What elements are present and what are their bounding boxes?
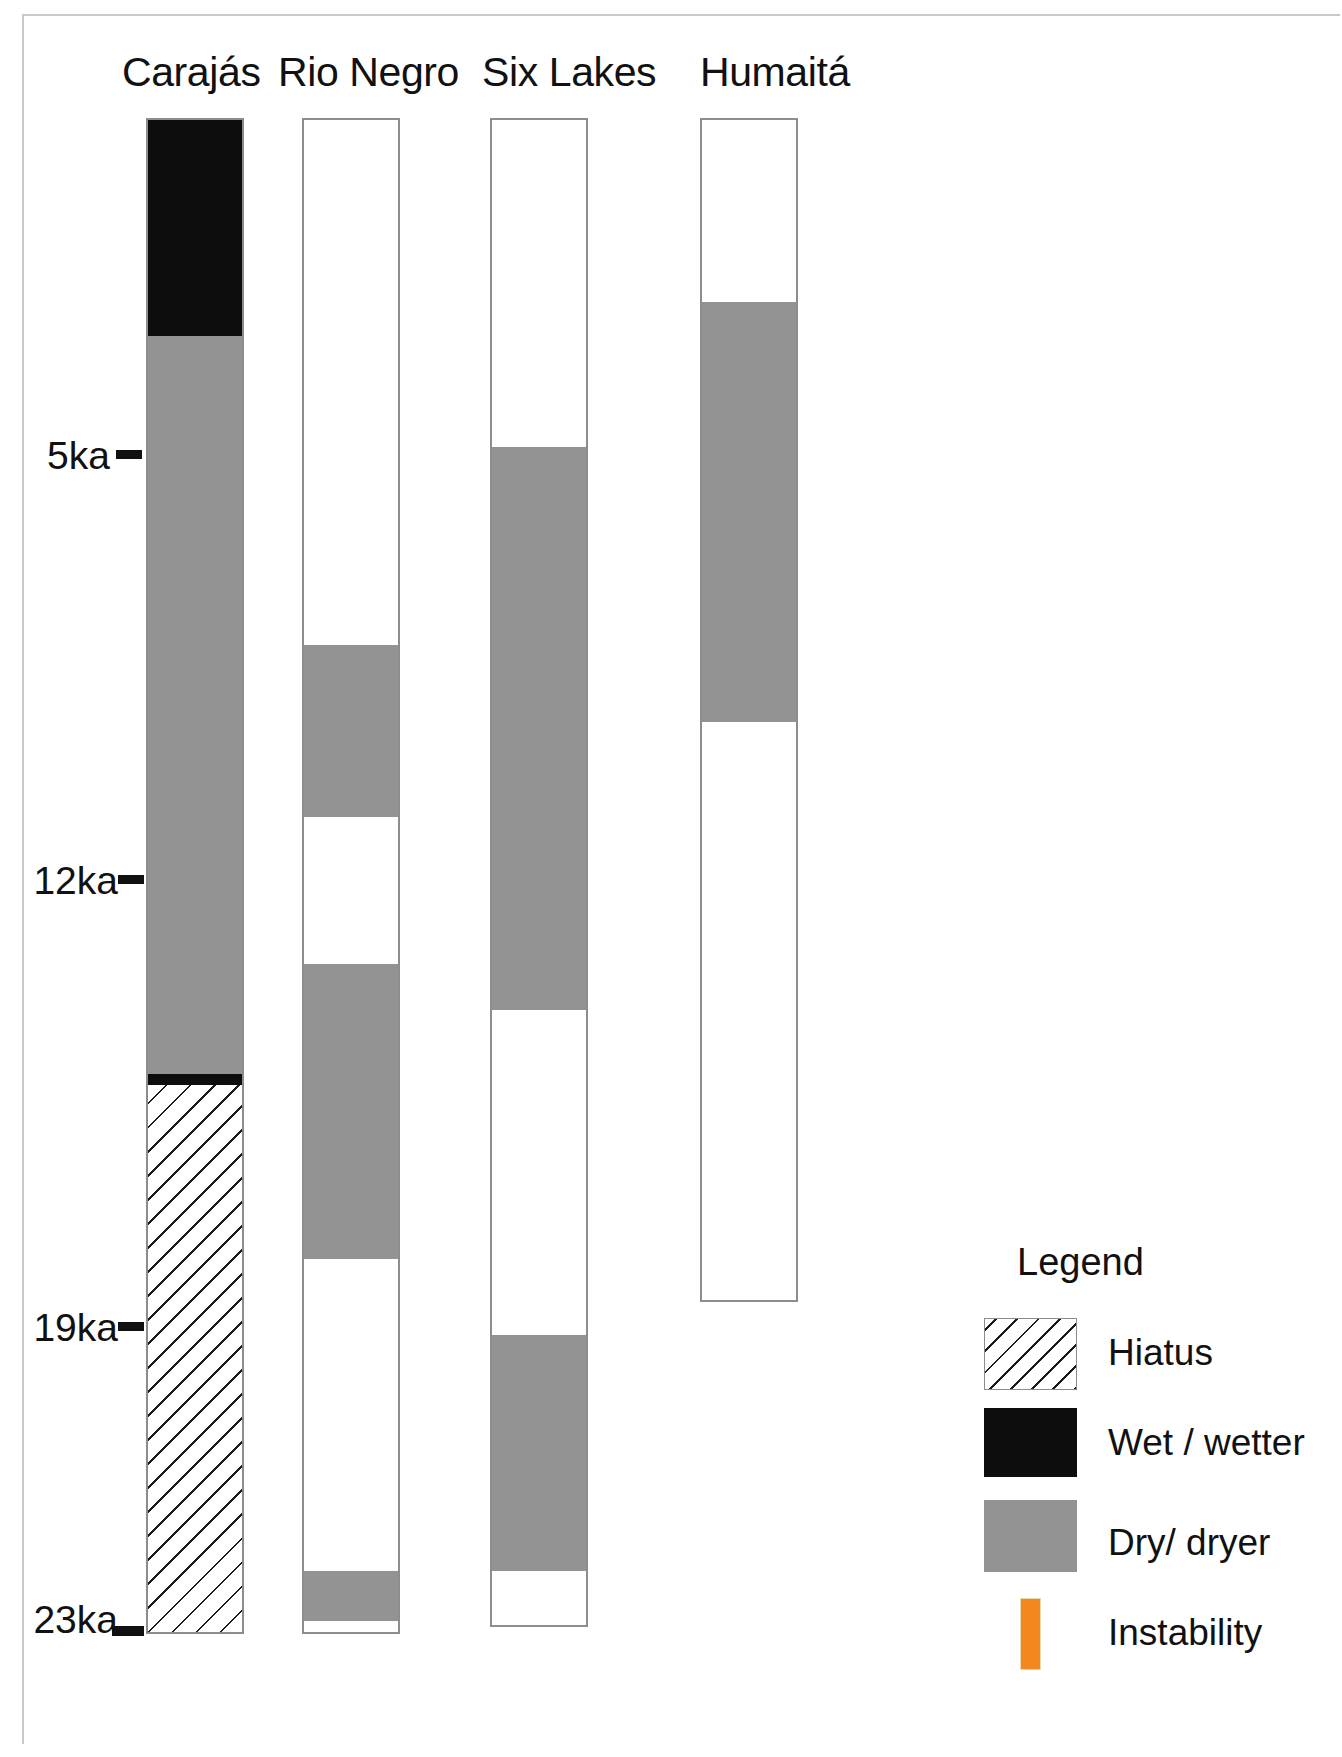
axis-label-5ka: 5ka [0, 436, 110, 475]
axis-tick-5ka [116, 450, 142, 459]
legend-swatch-hiatus-icon [984, 1318, 1077, 1390]
column-humaita[interactable] [700, 118, 798, 1302]
legend-label-wet: Wet / wetter [1108, 1424, 1305, 1461]
band-dry [304, 964, 398, 1259]
legend-swatch-instability-icon [1020, 1598, 1041, 1670]
legend-label-dry: Dry/ dryer [1108, 1524, 1270, 1561]
column-carajas[interactable] [146, 118, 244, 1634]
column-title-carajas: Carajás [122, 52, 260, 93]
legend-label-instability: Instability [1108, 1614, 1262, 1651]
column-title-humaita: Humaitá [700, 52, 850, 93]
legend-title: Legend [1017, 1243, 1144, 1281]
band-wet [148, 120, 242, 336]
axis-tick-23ka [112, 1626, 144, 1636]
band-nodata [492, 120, 586, 447]
band-dry [702, 302, 796, 722]
band-nodata [492, 1571, 586, 1627]
band-dry [148, 336, 242, 1074]
band-dry [304, 645, 398, 817]
band-dry [492, 447, 586, 1010]
band-hiatus [148, 1085, 242, 1634]
band-nodata [702, 120, 796, 302]
band-wet-thin [148, 1074, 242, 1085]
band-nodata [492, 1010, 586, 1335]
axis-tick-19ka [118, 1322, 144, 1331]
axis-label-12ka: 12ka [0, 861, 118, 900]
column-title-six-lakes: Six Lakes [482, 52, 656, 93]
axis-label-19ka: 19ka [0, 1308, 118, 1347]
axis-label-23ka: 23ka [0, 1600, 118, 1639]
column-rio-negro[interactable] [302, 118, 400, 1634]
band-dry [304, 1571, 398, 1621]
band-nodata [304, 1259, 398, 1571]
column-six-lakes[interactable] [490, 118, 588, 1627]
band-nodata [702, 722, 796, 1302]
band-dry [492, 1335, 586, 1571]
band-nodata [304, 120, 398, 645]
band-nodata [304, 817, 398, 964]
paleoclimate-column-figure: Carajás Rio Negro Six Lakes Humaitá 5ka … [0, 0, 1342, 1757]
legend-swatch-wet-icon [984, 1408, 1077, 1477]
legend-swatch-dry-icon [984, 1500, 1077, 1572]
band-nodata [304, 1621, 398, 1634]
column-title-rio-negro: Rio Negro [278, 52, 459, 93]
legend-label-hiatus: Hiatus [1108, 1334, 1213, 1371]
axis-tick-12ka [118, 875, 144, 884]
